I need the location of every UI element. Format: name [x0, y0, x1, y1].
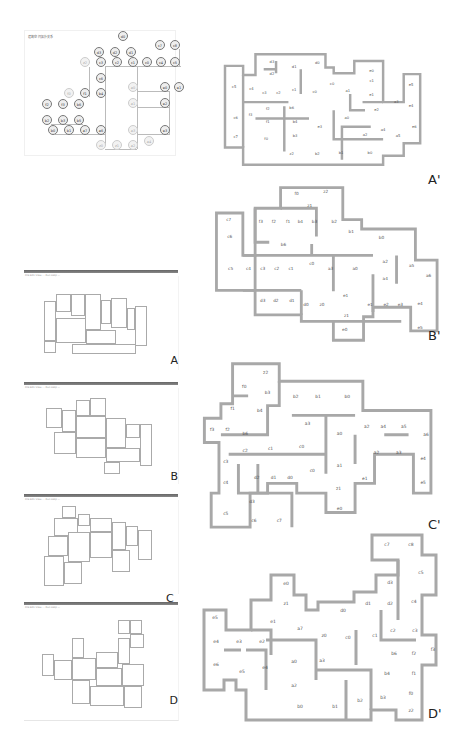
room-label: c8	[408, 542, 413, 547]
graph-node: c6	[96, 73, 106, 83]
graph-node: a7	[80, 125, 90, 135]
room-label: f3	[431, 647, 436, 652]
room-label: e1	[367, 302, 373, 307]
room-label: a2	[364, 424, 370, 429]
room-label: e0	[337, 506, 343, 511]
graph-node: a4	[144, 136, 154, 146]
room-block	[118, 620, 130, 634]
graph-node: e0	[160, 82, 170, 92]
room-label: a1	[337, 463, 343, 468]
room-label: c4	[223, 480, 228, 485]
room-label: c2	[243, 448, 248, 453]
graph-node: e3	[160, 125, 170, 135]
room-label: a2	[374, 450, 380, 455]
layout-canvas	[24, 388, 179, 484]
room-label: b4	[298, 219, 304, 224]
panel-label: D	[170, 694, 178, 707]
layout-canvas	[24, 276, 179, 370]
room-block	[72, 638, 84, 658]
room-label: a6	[423, 432, 429, 437]
room-label: a3	[319, 658, 325, 663]
room-label: c0	[310, 468, 315, 473]
room-label: b0	[379, 235, 385, 240]
graph-node: e1	[174, 82, 184, 92]
room-label: b1	[349, 229, 355, 234]
room-label: b4	[384, 671, 390, 676]
floor-plan-svg: d3d1d0d2e0c5c4c0c1e5c3c2c1c0a1e1a3e4f2b6…	[196, 28, 450, 168]
room-label: c2	[276, 91, 280, 95]
room-label: e4	[420, 456, 426, 461]
room-label: c7	[226, 217, 231, 222]
room-label: e2	[384, 302, 390, 307]
room-block	[71, 294, 85, 316]
room-block	[126, 424, 140, 438]
room-label: e1	[362, 476, 368, 481]
room-label: c5	[418, 570, 423, 575]
room-block	[135, 306, 147, 346]
room-block	[85, 294, 101, 330]
room-label: d3	[249, 499, 255, 504]
room-label: d1	[365, 601, 371, 606]
room-block	[46, 408, 62, 428]
room-label: e1	[343, 293, 349, 298]
graph-edge	[137, 67, 138, 149]
room-label: e5	[409, 83, 414, 87]
room-block	[96, 652, 118, 668]
room-block	[56, 294, 71, 312]
graph-node: a6	[96, 125, 106, 135]
graph-node: a1	[128, 98, 138, 108]
graph-node: c7	[155, 40, 165, 50]
floor-plan-c-prime: z2f0b3b2b1b0f1b4f3f2b6a3a0a2a4a5a6c2c1c0…	[196, 357, 450, 532]
room-label: e3	[236, 639, 242, 644]
room-block	[72, 658, 96, 680]
room-label: d2	[387, 601, 393, 606]
room-block	[68, 532, 90, 562]
room-label: d3	[260, 298, 266, 303]
room-label: a7	[297, 626, 303, 631]
room-label: d2	[270, 72, 275, 76]
room-label: e5	[239, 669, 245, 674]
room-block	[76, 400, 90, 416]
room-label: e5	[417, 325, 423, 330]
room-label: a3	[394, 100, 399, 104]
room-block	[130, 634, 144, 648]
room-label: a2	[363, 133, 368, 137]
room-label: b4	[293, 120, 298, 124]
room-label: a3	[396, 450, 402, 455]
room-label: z0	[320, 302, 325, 307]
room-block	[90, 398, 106, 416]
room-block	[90, 686, 124, 706]
room-label: e4	[262, 665, 268, 670]
room-label: f3	[259, 219, 263, 224]
layout-canvas	[24, 500, 179, 594]
room-label: z2	[408, 708, 413, 713]
graph-title: 建筑空间拓扑关系	[28, 35, 54, 39]
room-label: d3	[387, 580, 393, 585]
room-label: b3	[265, 390, 271, 395]
room-label: e6	[213, 662, 219, 667]
room-label: d0	[287, 475, 293, 480]
room-label: b2	[332, 219, 338, 224]
graph-node: z0	[96, 140, 106, 150]
graph-node: f1	[80, 88, 90, 98]
room-label: e5	[212, 615, 218, 620]
room-label: c5	[228, 267, 233, 272]
room-label: b1	[332, 704, 338, 709]
room-label: z1	[283, 601, 288, 606]
room-label: b1	[315, 394, 321, 399]
graph-node: d0	[118, 31, 128, 41]
room-label: e4	[213, 639, 219, 644]
room-label: d2	[254, 475, 260, 480]
graph-node: d1	[126, 47, 136, 57]
floor-plan-a-prime: d3d1d0d2e0c5c4c0c1e5c3c2c1c0a1e1a3e4f2b6…	[196, 28, 450, 168]
room-label: z0	[321, 633, 326, 638]
room-label: c0	[299, 444, 304, 449]
room-block	[112, 550, 130, 572]
room-label: z1	[336, 486, 341, 491]
room-block	[44, 556, 64, 586]
room-label: c1	[372, 633, 377, 638]
window-titlebar	[24, 494, 178, 497]
room-label: e1	[369, 93, 374, 97]
graph-node: z1	[112, 140, 122, 150]
room-label: e4	[409, 104, 414, 108]
